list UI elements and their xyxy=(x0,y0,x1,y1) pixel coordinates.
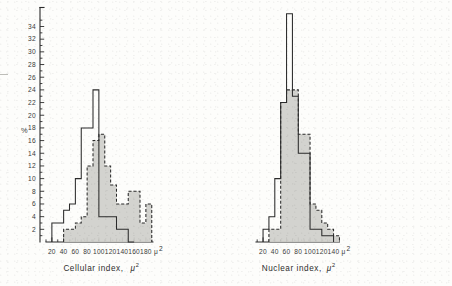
y-tick-label-32: 32 xyxy=(28,35,36,42)
panel-cellular-index: 20406080100120140160180μ2Cellular index,… xyxy=(46,90,163,273)
x-tick-label-nuclear-index-40: 40 xyxy=(271,248,279,255)
x-tick-label-nuclear-index-120: 120 xyxy=(316,248,328,255)
y-tick-label-28: 28 xyxy=(28,61,36,68)
y-tick-label-10: 10 xyxy=(28,175,36,182)
x-tick-label-cellular-index-20: 20 xyxy=(48,248,56,255)
y-tick-label-26: 26 xyxy=(28,74,36,81)
x-tick-label-nuclear-index-80: 80 xyxy=(294,248,302,255)
y-tick-label-20: 20 xyxy=(28,112,36,119)
y-tick-label-2: 2 xyxy=(32,226,36,233)
x-tick-label-cellular-index-100: 100 xyxy=(93,248,105,255)
x-tick-label-cellular-index-120: 120 xyxy=(105,248,117,255)
x-tick-label-cellular-index-140: 140 xyxy=(116,248,128,255)
plot-canvas: 246810121416182022242628303234% 20406080… xyxy=(0,0,452,286)
y-tick-label-8: 8 xyxy=(32,188,36,195)
x-axis-title-unit-nuclear-index: μ xyxy=(326,264,332,273)
y-tick-label-22: 22 xyxy=(28,99,36,106)
x-axis-title-exponent-nuclear-index: 2 xyxy=(332,262,336,268)
y-tick-label-14: 14 xyxy=(28,150,36,157)
x-tick-label-cellular-index-60: 60 xyxy=(71,248,79,255)
x-tick-label-cellular-index-80: 80 xyxy=(83,248,91,255)
x-axis-unit-exponent-cellular-index: 2 xyxy=(159,245,163,252)
histogram-figure: 246810121416182022242628303234% 20406080… xyxy=(0,0,452,286)
y-axis-label-percent: % xyxy=(21,126,28,135)
y-tick-label-18: 18 xyxy=(28,124,36,131)
x-axis-unit-cellular-index: μ xyxy=(154,248,158,256)
x-tick-label-cellular-index-180: 180 xyxy=(140,248,152,255)
x-axis-title-exponent-cellular-index: 2 xyxy=(136,262,140,268)
x-axis-unit-exponent-nuclear-index: 2 xyxy=(347,245,351,252)
y-tick-label-30: 30 xyxy=(28,48,36,55)
x-tick-label-cellular-index-40: 40 xyxy=(60,248,68,255)
y-axis: 246810121416182022242628303234% xyxy=(21,7,44,242)
y-tick-label-34: 34 xyxy=(28,23,36,30)
y-tick-label-16: 16 xyxy=(28,137,36,144)
y-tick-label-12: 12 xyxy=(28,162,36,169)
histogram-shaded-fill-cellular-index xyxy=(64,134,152,242)
x-axis-unit-nuclear-index: μ xyxy=(342,248,346,256)
panel-nuclear-index: 20406080100120140μ2Nuclear index,μ2 xyxy=(256,14,351,273)
histogram-shaded-fill-nuclear-index xyxy=(269,90,340,242)
y-tick-label-4: 4 xyxy=(32,213,36,220)
x-axis-title-unit-cellular-index: μ xyxy=(129,264,135,273)
y-tick-label-24: 24 xyxy=(28,86,36,93)
x-axis-title-nuclear-index: Nuclear index, xyxy=(262,264,322,273)
x-tick-label-nuclear-index-100: 100 xyxy=(304,248,316,255)
x-axis-title-cellular-index: Cellular index, xyxy=(63,264,123,273)
x-tick-label-nuclear-index-60: 60 xyxy=(283,248,291,255)
page-edge-mark-left xyxy=(0,74,8,75)
x-tick-label-nuclear-index-140: 140 xyxy=(328,248,340,255)
y-tick-label-6: 6 xyxy=(32,200,36,207)
x-tick-label-cellular-index-160: 160 xyxy=(128,248,140,255)
x-tick-label-nuclear-index-20: 20 xyxy=(259,248,267,255)
